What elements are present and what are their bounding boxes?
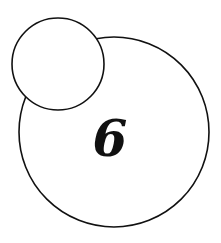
digit-label: 6 <box>93 109 128 168</box>
circle-diagram: 6 <box>0 0 221 243</box>
small-circle <box>12 18 104 110</box>
